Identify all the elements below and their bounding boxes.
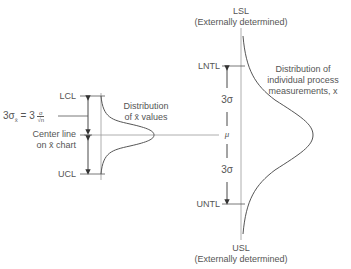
usl-note: (Externally determined): [186, 254, 296, 264]
lsl-note: (Externally determined): [186, 17, 296, 27]
process-dist-label-1: Distribution of: [258, 64, 348, 74]
center-line-label-1: Center line: [20, 129, 76, 139]
xbar-dist-label-2: of x̄ values: [116, 112, 176, 122]
xbar-dist-label-1: Distribution: [116, 101, 176, 111]
lntl-label: LNTL: [190, 61, 220, 71]
sigma-upper-label: 3σ: [216, 95, 238, 105]
usl-label: USL: [221, 243, 261, 253]
center-line-label-2: on x̄ chart: [20, 140, 76, 150]
lcl-label: LCL: [48, 91, 76, 101]
lsl-label: LSL: [221, 6, 261, 16]
untl-label: UNTL: [190, 199, 220, 209]
ucl-label: UCL: [48, 169, 76, 179]
mu-label: μ: [219, 129, 235, 139]
sigma-lower-label: 3σ: [216, 165, 238, 175]
control-limits-diagram: LCL UCL 3σx̄ = 3 σ √n Center line on x̄ …: [0, 0, 351, 269]
process-dist-label-2: individual process: [258, 75, 348, 85]
sigma-formula: 3σx̄ = 3 σ √n: [3, 110, 44, 125]
process-dist-label-3: measurements, x: [258, 86, 348, 96]
